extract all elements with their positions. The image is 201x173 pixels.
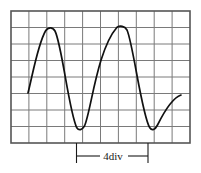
oscilloscope-figure: 4div [0,0,201,173]
dimension-label: 4div [103,150,123,162]
waveform-svg: 4div [0,0,201,173]
